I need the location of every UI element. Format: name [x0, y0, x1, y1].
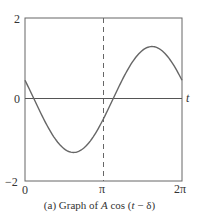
y-tick-label-2: 2	[14, 13, 20, 25]
plot-area	[0, 0, 199, 212]
caption-prefix: (a) Graph of	[44, 199, 101, 211]
y-tick-label-0: 0	[14, 93, 20, 105]
x-tick-label-pi: π	[99, 183, 105, 195]
figure-caption: (a) Graph of A cos (t − δ)	[0, 199, 199, 211]
y-tick-label-minus-2: −2	[5, 176, 18, 188]
caption-A: A	[101, 199, 108, 211]
caption-cos: cos (	[108, 199, 132, 211]
t-axis-label: t	[186, 92, 189, 104]
caption-suffix: − δ)	[135, 199, 156, 211]
x-tick-label-2pi: 2π	[174, 183, 186, 195]
x-tick-label-0: 0	[22, 184, 28, 196]
